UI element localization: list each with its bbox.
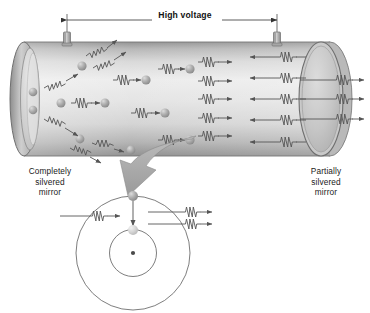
left-mirror-line-1: Completely: [4, 166, 96, 177]
right-mirror-line-1: Partially: [286, 166, 366, 177]
completely-silvered-mirror: [10, 42, 40, 156]
partially-silvered-mirror-label: Partially silvered mirror: [286, 166, 366, 198]
left-mirror-line-2: silvered: [4, 177, 96, 188]
electron-ground: [128, 225, 138, 235]
atom: [160, 108, 169, 117]
left-mirror-inner-shadow: [27, 53, 39, 145]
left-electrode-base: [62, 43, 72, 46]
atom: [57, 99, 66, 108]
atom: [77, 61, 86, 70]
right-electrode-body: [274, 32, 281, 44]
incident-photon: [60, 211, 120, 221]
laser-diagram: High voltage Completely silvered mirror …: [0, 0, 370, 313]
left-mirror-line-3: mirror: [4, 187, 96, 198]
electron-excited: [128, 191, 138, 201]
left-electrode: [62, 32, 72, 46]
right-mirror-line-3: mirror: [286, 187, 366, 198]
atom: [29, 88, 38, 97]
emitted-photon: [148, 207, 212, 217]
nucleus: [131, 251, 135, 255]
atom-detail-inset: [60, 191, 212, 310]
diagram-canvas: [0, 0, 370, 313]
atom: [127, 146, 136, 155]
atom: [29, 106, 38, 115]
atom: [76, 135, 85, 144]
atom: [101, 99, 110, 108]
atom: [185, 64, 194, 73]
high-voltage-label: High voltage: [0, 10, 370, 20]
atom: [141, 75, 150, 84]
left-electrode-body: [64, 32, 71, 44]
completely-silvered-mirror-label: Completely silvered mirror: [4, 166, 96, 198]
right-electrode: [272, 32, 282, 46]
right-mirror-line-2: silvered: [286, 177, 366, 188]
right-electrode-base: [272, 43, 282, 46]
